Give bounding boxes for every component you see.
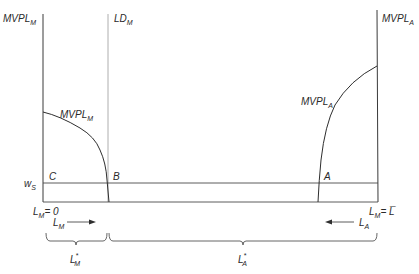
wage-label: wS [24,178,36,191]
arrow-m-label: LM [53,217,65,230]
brace-a [109,233,377,245]
right-axis-label: MVPLA [382,13,414,26]
brace-m [46,233,107,245]
point-c-label: C [49,171,57,182]
arrow-a-label: LA [359,217,370,230]
right-axis [377,10,378,202]
mvpl-m-curve [43,112,109,202]
point-b-label: B [113,171,120,182]
brace-a-label: L*A [238,252,247,267]
labor-allocation-diagram: MVPLM LDM MVPLA wS MVPLM MVPLA C B [0,0,419,274]
mvpl-a-curve-label: MVPLA [301,96,333,109]
point-a-label: A [323,171,331,182]
arrow-a-head-icon [325,220,332,225]
ld-m-label: LDM [114,13,133,26]
brace-m-label: L*M [70,252,80,267]
origin-right-label: LM= L̅ [369,206,396,219]
arrow-m-head-icon [89,220,96,225]
left-axis-label: MVPLM [3,13,36,26]
